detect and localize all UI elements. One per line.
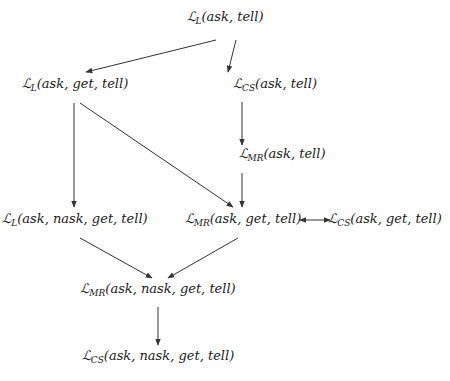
node-subscript: MR [89, 288, 105, 298]
node-args: (ask, tell) [264, 146, 326, 161]
node-args: (ask, tell) [202, 9, 264, 24]
node-mr-ask-get-tell: ℒMR(ask, get, tell) [185, 212, 301, 228]
node-args: (ask, nask, get, tell) [104, 348, 234, 363]
calligraphic-l-symbol: ℒ [2, 211, 11, 226]
edge-n2-n6 [80, 103, 233, 207]
node-args: (ask, get, tell) [350, 211, 441, 226]
edge-n1-n3 [228, 40, 236, 72]
node-args: (ask, get, tell) [210, 211, 301, 226]
edge-n6-n8 [168, 238, 238, 278]
edge-n5-n8 [80, 238, 152, 278]
lattice-diagram: ℒL(ask, tell) ℒL(ask, get, tell) ℒCS(ask… [0, 0, 450, 381]
node-subscript: CS [91, 355, 104, 365]
node-subscript: CS [337, 218, 350, 228]
node-args: (ask, get, tell) [37, 76, 128, 91]
calligraphic-l-symbol: ℒ [185, 211, 194, 226]
edge-n1-n2 [86, 40, 216, 72]
node-args: (ask, tell) [255, 76, 317, 91]
edges-layer [0, 0, 450, 381]
node-l-ask-nask-get-tell: ℒL(ask, nask, get, tell) [2, 212, 147, 228]
node-subscript: CS [242, 83, 255, 93]
calligraphic-l-symbol: ℒ [22, 76, 31, 91]
node-cs-ask-nask-get-tell: ℒCS(ask, nask, get, tell) [82, 349, 234, 365]
node-subscript: MR [248, 153, 264, 163]
calligraphic-l-symbol: ℒ [328, 211, 337, 226]
node-l-ask-tell: ℒL(ask, tell) [187, 10, 264, 26]
calligraphic-l-symbol: ℒ [187, 9, 196, 24]
node-mr-ask-nask-get-tell: ℒMR(ask, nask, get, tell) [80, 282, 235, 298]
node-mr-ask-tell: ℒMR(ask, tell) [239, 147, 326, 163]
node-cs-ask-tell: ℒCS(ask, tell) [233, 77, 317, 93]
node-args: (ask, nask, get, tell) [17, 211, 147, 226]
calligraphic-l-symbol: ℒ [233, 76, 242, 91]
calligraphic-l-symbol: ℒ [82, 348, 91, 363]
node-args: (ask, nask, get, tell) [105, 281, 235, 296]
calligraphic-l-symbol: ℒ [80, 281, 89, 296]
node-subscript: MR [194, 218, 210, 228]
node-cs-ask-get-tell: ℒCS(ask, get, tell) [328, 212, 442, 228]
node-l-ask-get-tell: ℒL(ask, get, tell) [22, 77, 128, 93]
calligraphic-l-symbol: ℒ [239, 146, 248, 161]
